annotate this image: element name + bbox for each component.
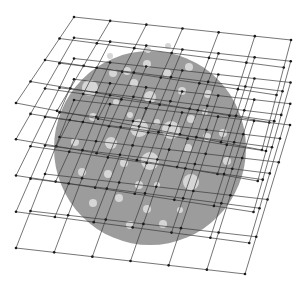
lattice-node xyxy=(133,47,136,50)
lattice-node xyxy=(147,131,150,134)
lattice-node xyxy=(53,251,56,254)
lattice-node xyxy=(220,202,223,205)
lattice-node xyxy=(58,62,61,65)
lattice-node xyxy=(220,141,223,144)
lattice-node xyxy=(195,136,198,139)
lattice-node xyxy=(44,87,47,90)
lattice-node xyxy=(15,138,18,141)
lattice-node xyxy=(204,153,207,156)
lattice-node xyxy=(131,226,134,229)
lattice-node xyxy=(145,44,148,47)
lattice-node xyxy=(170,76,173,79)
lattice-node xyxy=(194,163,197,166)
lattice-node xyxy=(181,111,184,114)
lattice-node xyxy=(67,214,70,217)
lattice-node xyxy=(243,109,246,112)
lattice-node xyxy=(15,247,18,250)
lattice-node xyxy=(261,178,264,181)
lattice-node xyxy=(109,20,112,23)
lattice-node xyxy=(206,268,209,271)
lattice-node xyxy=(289,102,292,105)
lattice-node xyxy=(170,231,173,234)
lattice-node xyxy=(181,69,184,72)
lattice-node xyxy=(132,95,135,98)
lattice-node xyxy=(104,218,107,221)
lattice-node xyxy=(206,105,209,108)
lattice-node xyxy=(144,192,147,195)
lattice-node xyxy=(289,60,292,63)
inclusion-blob xyxy=(159,220,167,228)
lattice-node xyxy=(95,115,98,118)
lattice-node xyxy=(207,81,210,84)
lattice-node xyxy=(192,190,195,193)
lattice-node xyxy=(120,98,123,101)
lattice-node xyxy=(271,146,274,149)
lattice-node xyxy=(244,273,247,276)
lattice-node xyxy=(253,98,256,101)
lattice-node xyxy=(81,149,84,152)
inclusion-blob xyxy=(115,194,123,202)
lattice-node xyxy=(235,114,238,117)
lattice-node xyxy=(289,124,292,127)
lattice-node xyxy=(131,144,134,147)
lattice-node xyxy=(96,42,99,45)
lattice-node xyxy=(73,78,76,81)
lattice-node xyxy=(29,113,32,116)
lattice-node xyxy=(280,114,283,117)
lattice-node xyxy=(54,216,57,219)
lattice-node xyxy=(248,242,251,245)
lattice-node xyxy=(29,145,32,148)
disc-group xyxy=(54,43,246,245)
lattice-node xyxy=(156,158,159,161)
lattice-node xyxy=(241,157,244,160)
lattice-node xyxy=(145,162,148,165)
lattice-node xyxy=(277,161,280,164)
lattice-node xyxy=(58,37,61,40)
lattice-node xyxy=(217,115,220,118)
lattice-node xyxy=(149,101,152,104)
lattice-node xyxy=(184,167,187,170)
lattice-node xyxy=(170,52,173,55)
lattice-node xyxy=(167,264,170,267)
lattice-node xyxy=(159,76,162,79)
lattice-node xyxy=(181,27,184,30)
lattice-node xyxy=(133,192,136,195)
lattice-node xyxy=(168,148,171,151)
lattice-node xyxy=(133,71,136,74)
lattice-node xyxy=(119,153,122,156)
lattice-node xyxy=(73,57,76,60)
lattice-node xyxy=(273,120,276,123)
lattice-node xyxy=(217,94,220,97)
lattice-node xyxy=(217,31,220,34)
lattice-node xyxy=(44,144,47,147)
lattice-node xyxy=(95,67,98,70)
inclusion-blob xyxy=(113,99,119,105)
lattice-node xyxy=(208,57,211,60)
lattice-node xyxy=(109,82,112,85)
lattice-node xyxy=(173,199,176,202)
lattice-node xyxy=(275,94,278,97)
lattice-node xyxy=(58,111,61,114)
lattice-node xyxy=(186,137,189,140)
lattice-node xyxy=(97,117,100,120)
lattice-node xyxy=(118,181,121,184)
lattice-node xyxy=(15,174,18,177)
lattice-node xyxy=(289,81,292,84)
lattice-node xyxy=(157,131,160,134)
lattice-node xyxy=(109,61,112,64)
lattice-node xyxy=(281,90,284,93)
lattice-node xyxy=(182,197,185,200)
lattice-node xyxy=(213,205,216,208)
lattice-node xyxy=(95,91,98,94)
lattice-node xyxy=(244,85,247,88)
lattice-node xyxy=(255,235,258,238)
lattice-node xyxy=(107,156,110,159)
lattice-node xyxy=(145,86,148,89)
lattice-node xyxy=(82,93,85,96)
inclusion-blob xyxy=(107,53,113,59)
lattice-node xyxy=(205,129,208,132)
lattice-node xyxy=(242,133,245,136)
lattice-node xyxy=(109,103,112,106)
lattice-node xyxy=(58,86,61,89)
lattice-node xyxy=(58,136,61,139)
